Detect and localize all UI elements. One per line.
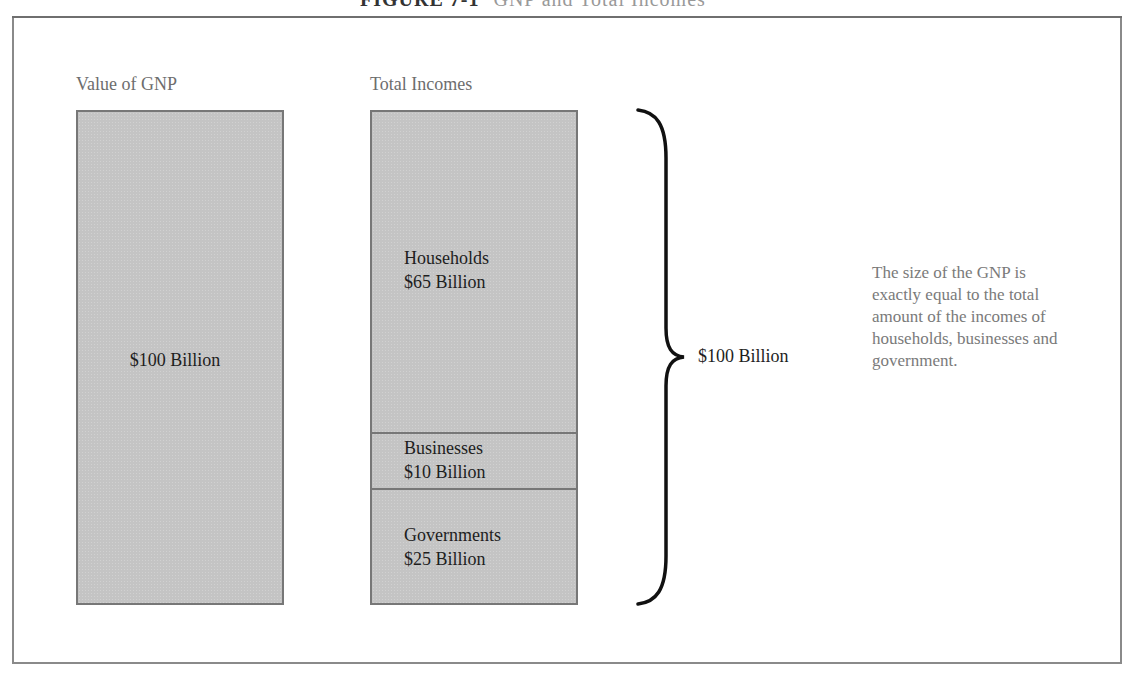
gnp-column-label: Value of GNP bbox=[76, 74, 177, 95]
households-label: Households bbox=[404, 246, 489, 270]
gnp-box: $100 Billion bbox=[76, 110, 284, 605]
governments-value: $25 Billion bbox=[404, 547, 501, 571]
explanatory-note: The size of the GNP is exactly equal to … bbox=[872, 262, 1072, 372]
businesses-label: Businesses bbox=[404, 436, 486, 460]
brace-total-label: $100 Billion bbox=[698, 346, 789, 367]
figure-title: FIGURE 7-1GNP and Total Incomes bbox=[360, 0, 706, 11]
figure-number: FIGURE 7-1 bbox=[360, 0, 479, 10]
governments-segment: Governments $25 Billion bbox=[372, 489, 576, 603]
households-value: $65 Billion bbox=[404, 270, 489, 294]
gnp-value: $100 Billion bbox=[68, 350, 282, 371]
households-segment: Households $65 Billion bbox=[372, 112, 576, 434]
businesses-value: $10 Billion bbox=[404, 460, 486, 484]
incomes-box: Households $65 Billion Businesses $10 Bi… bbox=[370, 110, 578, 605]
figure-subtitle: GNP and Total Incomes bbox=[493, 0, 705, 10]
businesses-segment: Businesses $10 Billion bbox=[372, 432, 576, 490]
incomes-column-label: Total Incomes bbox=[370, 74, 472, 95]
curly-brace-icon bbox=[636, 108, 686, 606]
governments-label: Governments bbox=[404, 523, 501, 547]
